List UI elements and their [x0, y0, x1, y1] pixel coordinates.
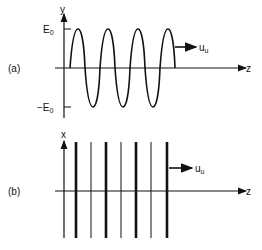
wavefronts	[76, 142, 167, 238]
pos-amp-label: E0	[43, 24, 54, 36]
z-axis-label-a: z	[246, 63, 251, 74]
x-axis-label: x	[61, 129, 66, 140]
neg-amp-label: −E0	[37, 102, 54, 114]
wave-diagram: (a) y z E0 −E0 uu (b) x z uu	[0, 0, 262, 250]
panel-a-label: (a)	[8, 63, 20, 74]
panel-a: (a) y z E0 −E0 uu	[8, 4, 251, 118]
panel-b: (b) x z uu	[8, 129, 251, 238]
panel-b-label: (b)	[8, 186, 20, 197]
y-axis-label: y	[60, 4, 65, 15]
velocity-label-b: uu	[195, 163, 205, 175]
velocity-label-a: uu	[199, 42, 209, 54]
z-axis-label-b: z	[246, 186, 251, 197]
